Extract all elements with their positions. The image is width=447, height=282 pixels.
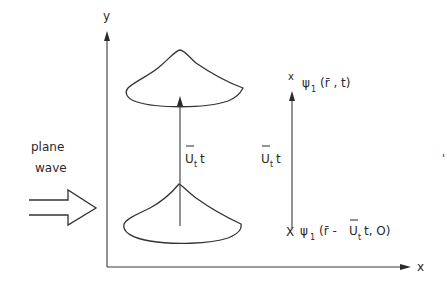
svg-text:U: U [261,152,270,166]
svg-text:1: 1 [310,233,315,242]
y-axis: y [103,9,110,267]
y-axis-arrowhead-icon [104,31,110,41]
bottom-position-marker: X [286,225,294,239]
arrow-up-icon [177,96,183,106]
stray-mark: ' [442,152,445,165]
svg-text:U: U [349,224,358,238]
double-arrow-right-icon [29,190,96,225]
x-axis-arrowhead-icon [400,264,411,270]
plane-wave-indicator: plane wave [29,140,96,225]
x-axis: x [107,260,424,274]
wave-packet-translation-diagram: y x plane wave U t t x X U t t [0,0,447,282]
arrow-up-icon [289,91,295,101]
center-displacement-label: U t t [185,146,205,169]
psi-top-label: ψ 1 (r̄ , t) [302,76,350,94]
plane-label: plane [31,140,64,154]
svg-text:ψ: ψ [300,224,308,238]
wave-packet-bottom-shape [124,184,241,243]
wave-label: wave [35,161,67,175]
svg-text:(r̄ , t): (r̄ , t) [320,76,350,90]
y-axis-label: y [103,9,110,23]
svg-text:t: t [276,152,281,166]
svg-text:t: t [270,160,273,169]
svg-text:(r̄ -: (r̄ - [319,224,337,238]
svg-text:t: t [194,160,197,169]
right-displacement-label: U t t [261,146,281,169]
svg-text:ψ: ψ [302,76,310,90]
svg-text:t, O): t, O) [364,224,390,238]
svg-text:t: t [358,233,361,242]
svg-text:t: t [200,152,205,166]
wave-packet-top-shape [126,50,243,107]
right-scale-arrow: x X [286,71,295,239]
svg-text:U: U [185,152,194,166]
center-displacement-arrow [177,96,183,226]
x-axis-label: x [417,260,424,274]
top-position-marker: x [288,71,294,82]
svg-text:1: 1 [311,85,316,94]
psi-bottom-label: ψ 1 (r̄ - U t t, O) [300,220,390,242]
